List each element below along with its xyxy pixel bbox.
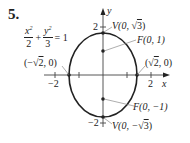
leader-x-int-right — [137, 66, 145, 75]
x-intercept-right-label: (√2, 0) — [145, 58, 172, 68]
x-axis-arrow-icon — [163, 73, 170, 78]
x-int-right-suffix: , 0) — [159, 57, 172, 68]
y-tick-label-neg2: −2 — [88, 118, 99, 128]
leader-vertex-top — [104, 27, 112, 32]
y-axis-label: y — [107, 6, 111, 16]
x-tick-label-neg2: −2 — [48, 79, 59, 89]
y-axis-arrow-icon — [101, 8, 106, 15]
vertex-bottom-suffix: ) — [149, 120, 152, 131]
focus-bottom-label: F(0, −1) — [133, 102, 168, 112]
x-int-left-prefix: (− — [24, 57, 33, 68]
leader-x-int-left — [62, 66, 69, 75]
x-int-right-prefix: ( — [145, 57, 148, 68]
x-axis-label: x — [162, 79, 166, 89]
x-intercept-left-label: (−√2, 0) — [24, 58, 57, 68]
x-int-left-suffix: , 0) — [43, 57, 56, 68]
vertex-top-prefix: V(0, — [112, 20, 131, 31]
vertex-top-suffix: ) — [142, 20, 145, 31]
vertex-bottom-prefix: V(0, − — [112, 120, 138, 131]
leader-focus-top — [104, 40, 136, 51]
x-tick-label-pos2: 2 — [148, 79, 153, 89]
vertex-top-label: V(0, √3) — [112, 21, 145, 31]
y-tick-label-pos2: 2 — [93, 22, 98, 32]
vertex-bottom-label: V(0, −√3) — [112, 121, 152, 131]
focus-top-label: F(0, 1) — [137, 35, 165, 45]
